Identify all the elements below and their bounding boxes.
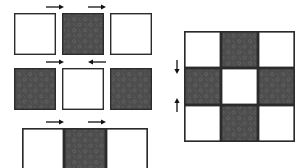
square-assembly-diagram: [0, 0, 305, 168]
cell-r0-c0: [185, 32, 221, 68]
cell-r1-c2: [259, 69, 295, 105]
middle-center-tile: [63, 69, 104, 110]
diagram-canvas: [0, 0, 305, 168]
middle-right-tile: [111, 69, 152, 110]
bottom-left-tile: [23, 129, 64, 168]
assembled-grid-group: [174, 32, 294, 142]
cell-r2-c2: [259, 106, 295, 142]
cell-r0-c2: [259, 32, 295, 68]
bottom-right-tile: [107, 129, 148, 168]
exploded-rows-group: [15, 4, 152, 168]
bottom-center-tile: [65, 129, 106, 168]
cell-r1-c1: [222, 69, 258, 105]
cell-r2-c0: [185, 106, 221, 142]
top-left-tile: [15, 14, 56, 55]
middle-left-tile: [15, 69, 56, 110]
top-right-tile: [111, 14, 152, 55]
cell-r0-c1: [222, 32, 258, 68]
cell-r2-c1: [222, 106, 258, 142]
cell-r1-c0: [185, 69, 221, 105]
top-center-tile: [63, 14, 104, 55]
